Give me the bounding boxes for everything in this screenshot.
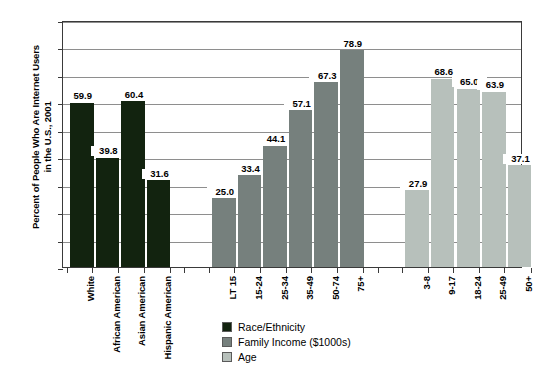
legend-label: Family Income ($1000s): [238, 336, 351, 348]
bar-75: [340, 50, 364, 267]
bar-chart: Percent of People Who Are Internet Users…: [0, 0, 536, 374]
x-axis-label-18-24: 18-24: [472, 276, 483, 300]
x-axis-tick: [234, 268, 235, 273]
y-axis-tick: [58, 159, 63, 160]
bar-18-24: [457, 89, 481, 267]
bar-35-49: [289, 110, 313, 267]
y-axis-tick: [58, 214, 63, 215]
bar-25-34: [263, 146, 287, 267]
x-axis-tick: [184, 268, 185, 273]
legend-item: Family Income ($1000s): [222, 334, 351, 349]
x-axis-tick: [504, 268, 505, 273]
legend-swatch: [222, 322, 232, 332]
bar-asian-american: [121, 101, 145, 267]
x-axis-tick: [118, 268, 119, 273]
x-axis-tick: [260, 268, 261, 273]
bar-african-american: [96, 158, 120, 267]
x-axis-tick: [479, 268, 480, 273]
x-axis-label-asian-american: Asian American: [136, 276, 147, 346]
y-axis-title-line1: Percent of People Who Are Internet Users: [30, 45, 41, 229]
x-axis-tick: [144, 268, 145, 273]
y-axis-tick: [58, 104, 63, 105]
gridline: [63, 49, 521, 50]
x-axis-tick: [337, 268, 338, 273]
x-axis-tick: [311, 268, 312, 273]
y-axis-title-line2: in the U.S., 2001: [42, 6, 54, 268]
x-axis-tick: [170, 268, 171, 273]
x-axis-tick: [531, 268, 532, 273]
bar-value-label: 59.9: [65, 91, 101, 101]
bar-25-49: [482, 92, 506, 267]
y-axis-tick: [58, 77, 63, 78]
x-axis-label-african-american: African American: [111, 276, 122, 353]
bar-white: [70, 103, 94, 267]
x-axis-label-25-49: 25-49: [497, 276, 508, 300]
x-axis-label-white: White: [85, 276, 96, 301]
x-axis-tick: [378, 268, 379, 273]
y-axis-tick: [58, 49, 63, 50]
bar-hispanic-american: [147, 180, 171, 267]
bar-value-label: 31.6: [142, 169, 178, 179]
x-axis-tick: [428, 268, 429, 273]
bar-value-label: 63.9: [477, 80, 513, 90]
x-axis-label-lt-15: LT 15: [227, 276, 238, 300]
bar-50: [508, 165, 532, 267]
y-axis-title: Percent of People Who Are Internet Users…: [0, 0, 32, 270]
bar-value-label: 78.9: [335, 39, 371, 49]
x-axis-label-hispanic-american: Hispanic American: [162, 276, 173, 359]
legend-item: Race/Ethnicity: [222, 319, 351, 334]
y-axis-tick: [58, 132, 63, 133]
x-axis-label-75: 75+: [355, 276, 366, 292]
x-axis-label-50: 50+: [523, 276, 534, 292]
x-axis-label-25-34: 25-34: [279, 276, 290, 300]
bar-lt-15: [212, 198, 236, 267]
bar-3-8: [405, 190, 429, 267]
bar-15-24: [238, 175, 262, 267]
x-axis-label-3-8: 3-8: [421, 276, 432, 289]
x-axis-tick: [209, 268, 210, 273]
legend-label: Age: [238, 351, 257, 363]
x-axis-label-15-24: 15-24: [253, 276, 264, 300]
y-axis-tick: [58, 187, 63, 188]
legend-swatch: [222, 337, 232, 347]
y-axis-tick: [58, 242, 63, 243]
x-axis-label-35-49: 35-49: [304, 276, 315, 300]
legend-item: Age: [222, 349, 351, 364]
legend: Race/EthnicityFamily Income ($1000s)Age: [222, 319, 351, 364]
gridline: [63, 22, 521, 23]
legend-label: Race/Ethnicity: [238, 321, 305, 333]
bar-value-label: 68.6: [426, 67, 462, 77]
x-axis-tick: [92, 268, 93, 273]
bar-value-label: 60.4: [116, 90, 152, 100]
x-axis-tick: [363, 268, 364, 273]
x-axis-label-9-17: 9-17: [446, 276, 457, 295]
legend-swatch: [222, 352, 232, 362]
bar-50-74: [314, 82, 338, 267]
x-axis-tick: [67, 268, 68, 273]
x-axis-tick: [402, 268, 403, 273]
bar-value-label: 37.1: [503, 154, 536, 164]
x-axis-tick: [453, 268, 454, 273]
y-axis-tick: [58, 22, 63, 23]
x-axis-label-50-74: 50-74: [330, 276, 341, 300]
bar-9-17: [431, 79, 455, 267]
x-axis-tick: [286, 268, 287, 273]
plot-area: 59.939.860.431.625.033.444.157.167.378.9…: [62, 21, 522, 268]
y-axis-tick: [58, 269, 63, 270]
